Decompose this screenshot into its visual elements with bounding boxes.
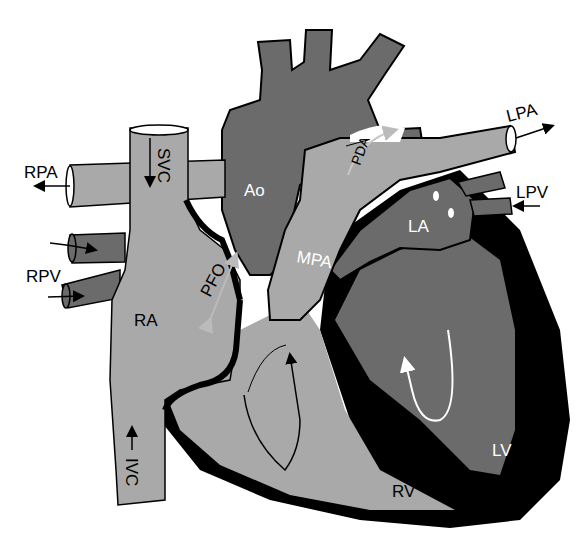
label-lpv: LPV <box>516 183 549 202</box>
label-rpa: RPA <box>24 163 58 182</box>
label-ao: Ao <box>244 181 265 200</box>
label-rpv: RPV <box>26 267 62 286</box>
label-ivc: IVC <box>122 458 141 486</box>
label-lv: LV <box>492 441 512 460</box>
label-ra: RA <box>134 311 158 330</box>
label-rv: RV <box>392 482 416 501</box>
label-svc: SVC <box>154 148 173 183</box>
label-la: LA <box>408 217 429 236</box>
heart-diagram: RPA SVC RPV RA PFO IVC Ao PDA LPA LPV LA… <box>0 0 582 558</box>
label-lpa: LPA <box>504 100 539 126</box>
